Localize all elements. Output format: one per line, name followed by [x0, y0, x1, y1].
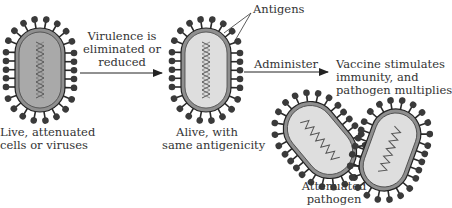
antigen-spike-icon: [31, 16, 39, 29]
label-outcome: Vaccine stimulates immunity, and pathoge…: [336, 58, 452, 97]
antigen-spike-icon: [30, 111, 39, 124]
label-administer: Administer: [248, 58, 324, 71]
antigen-spike-icon: [65, 76, 77, 83]
label-pathogen: Attenuated pathogen: [296, 180, 372, 206]
label-antigens: Antigens: [253, 3, 305, 16]
antigen-spike-icon: [169, 66, 181, 73]
antigen-spike-icon: [3, 84, 15, 91]
administer-text: Administer: [254, 57, 318, 71]
antigen-spike-icon: [387, 97, 395, 110]
antigen-spike-icon: [207, 16, 216, 29]
label-line: cells or viruses: [0, 139, 80, 152]
antigen-spike-icon: [231, 84, 243, 91]
antigen-spike-icon: [65, 50, 77, 57]
antigen-spike-icon: [169, 58, 181, 65]
label-line: pathogen multiplies: [336, 84, 452, 97]
label-line: same antigenicity: [162, 139, 252, 152]
antigen-spike-icon: [3, 58, 15, 65]
antigen-spike-icon: [271, 130, 284, 139]
antigen-spike-icon: [271, 119, 284, 127]
antigen-spike-icon: [3, 49, 15, 56]
antigen-spike-icon: [65, 84, 77, 91]
antigen-spike-icon: [421, 131, 433, 138]
label-attenuation: Virulence is eliminated or reduced: [78, 30, 166, 69]
antigen-spike-icon: [231, 76, 243, 83]
label-live: Live, attenuated cells or viruses: [0, 126, 80, 152]
antigen-spike-icon: [169, 49, 181, 56]
antigen-spike-icon: [41, 16, 50, 29]
label-line: reduced: [78, 56, 166, 69]
antigen-spike-icon: [169, 84, 181, 91]
antigen-spike-icon: [231, 50, 243, 57]
antigen-spike-icon: [207, 111, 215, 124]
antigens-text: Antigens: [253, 2, 305, 16]
antigen-spike-icon: [397, 97, 406, 110]
antigen-spike-icon: [3, 66, 15, 73]
antigen-spike-icon: [65, 58, 77, 65]
antigen-spike-icon: [303, 89, 311, 102]
antigen-spike-icon: [231, 58, 243, 65]
antigen-spike-icon: [196, 111, 205, 124]
antigen-pointer-1: [224, 13, 251, 33]
antigen-spike-icon: [231, 67, 243, 74]
antigen-spike-icon: [313, 89, 322, 102]
attenuated-virus: [169, 16, 244, 125]
antigen-spike-icon: [385, 190, 393, 203]
antigen-spike-icon: [3, 75, 15, 82]
antigen-spike-icon: [65, 67, 77, 74]
antigen-spike-icon: [41, 111, 49, 124]
antigen-spike-icon: [169, 75, 181, 82]
label-line: pathogen: [296, 193, 372, 206]
antigen-spike-icon: [374, 190, 383, 203]
live-virus: [3, 16, 78, 125]
antigen-pointer-2: [233, 13, 251, 44]
label-alive: Alive, with same antigenicity: [162, 126, 252, 152]
antigen-spike-icon: [197, 16, 205, 29]
